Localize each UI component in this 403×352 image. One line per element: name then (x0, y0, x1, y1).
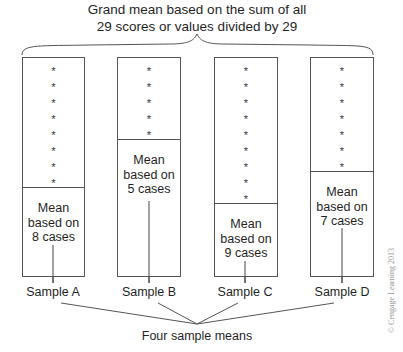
mean-divider (311, 171, 373, 172)
based-on-text: based on (311, 200, 373, 215)
star-icon: * (23, 82, 84, 92)
star-icon: * (118, 82, 180, 92)
mean-label-b: Mean based on 5 cases (118, 153, 180, 197)
mean-text: Mean (311, 185, 373, 200)
star-icon: * (311, 146, 373, 156)
based-on-text: based on (23, 216, 84, 231)
star-icon: * (215, 98, 277, 108)
star-icon: * (311, 66, 373, 76)
star-icon: * (23, 114, 84, 124)
star-icon: * (215, 178, 277, 188)
star-icon: * (118, 98, 180, 108)
mean-text: Mean (23, 201, 84, 216)
star-icon: * (311, 98, 373, 108)
star-icon: * (215, 114, 277, 124)
star-icon: * (215, 162, 277, 172)
mean-text: Mean (118, 153, 180, 168)
star-icon: * (23, 98, 84, 108)
mean-label-d: Mean based on 7 cases (311, 185, 373, 229)
cases-text: 7 cases (311, 214, 373, 229)
mean-divider (23, 187, 84, 188)
star-icon: * (311, 82, 373, 92)
sample-d-box: * * * * * * * Mean based on 7 cases (310, 57, 374, 277)
cases-text: 8 cases (23, 230, 84, 245)
sample-b-box: * * * * * Mean based on 5 cases (117, 57, 181, 277)
cases-text: 9 cases (215, 246, 277, 261)
star-icon: * (215, 82, 277, 92)
mean-label-a: Mean based on 8 cases (23, 201, 84, 245)
star-icon: * (215, 130, 277, 140)
star-icon: * (215, 146, 277, 156)
cases-text: 5 cases (118, 182, 180, 197)
star-icon: * (215, 66, 277, 76)
mean-text: Mean (215, 217, 277, 232)
copyright-notice: © Cengage Learning 2013 (387, 246, 396, 336)
grand-mean-brace (22, 34, 373, 55)
sample-a-label: Sample A (8, 285, 98, 299)
star-icon: * (311, 130, 373, 140)
star-icon: * (23, 130, 84, 140)
sample-c-label: Sample C (200, 285, 290, 299)
mean-label-c: Mean based on 9 cases (215, 217, 277, 261)
four-sample-means-label: Four sample means (100, 329, 294, 343)
star-icon: * (118, 66, 180, 76)
star-icon: * (118, 114, 180, 124)
mean-divider (215, 203, 277, 204)
sample-b-label: Sample B (104, 285, 194, 299)
sample-d-label: Sample D (297, 285, 387, 299)
based-on-text: based on (215, 232, 277, 247)
star-icon: * (23, 66, 84, 76)
based-on-text: based on (118, 168, 180, 183)
sample-c-box: * * * * * * * * * Mean based on 9 cases (214, 57, 278, 277)
sample-a-box: * * * * * * * * Mean based on 8 cases (22, 57, 85, 277)
star-icon: * (23, 146, 84, 156)
star-icon: * (311, 114, 373, 124)
star-icon: * (23, 162, 84, 172)
mean-divider (118, 139, 180, 140)
